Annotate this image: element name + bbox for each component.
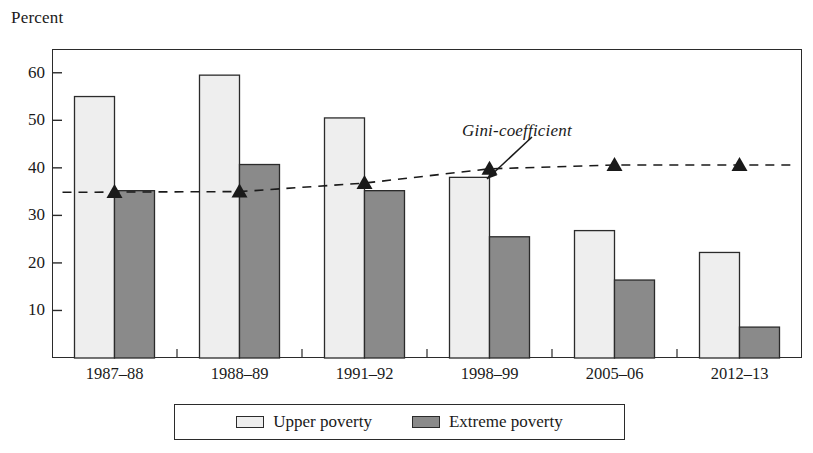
chart-figure: Percent 102030405060 Gini-coefficient Up… [0, 0, 813, 453]
bar-upper-poverty [575, 231, 615, 358]
bar-extreme-poverty [240, 165, 280, 358]
y-axis-tick-labels: 102030405060 [0, 0, 45, 453]
legend-label-extreme-poverty: Extreme poverty [449, 412, 563, 432]
plot-canvas [52, 49, 802, 358]
y-axis-tick-label: 50 [11, 111, 45, 128]
x-axis-tick-label: 1998–99 [461, 364, 519, 384]
x-axis-tick-label: 1991–92 [336, 364, 394, 384]
gini-coefficient-marker [607, 157, 623, 171]
gini-coefficient-annotation: Gini-coefficient [462, 121, 572, 141]
x-axis-tick-label: 1988–89 [211, 364, 269, 384]
gini-annotation-arrow [487, 137, 532, 179]
bar-extreme-poverty [115, 191, 155, 358]
bar-upper-poverty [700, 252, 740, 358]
chart-legend: Upper poverty Extreme poverty [174, 404, 625, 440]
legend-item-upper-poverty: Upper poverty [236, 412, 372, 432]
bar-upper-poverty [75, 97, 115, 358]
x-axis-tick-label: 2005–06 [586, 364, 644, 384]
y-axis-tick-label: 40 [11, 159, 45, 176]
gini-coefficient-line [63, 165, 792, 192]
gini-coefficient-marker [732, 157, 748, 171]
legend-item-extreme-poverty: Extreme poverty [412, 412, 563, 432]
gini-coefficient-marker [482, 161, 498, 175]
bar-extreme-poverty [615, 280, 655, 358]
y-axis-tick-label: 10 [11, 301, 45, 318]
legend-label-upper-poverty: Upper poverty [273, 412, 372, 432]
bar-upper-poverty [450, 177, 490, 358]
y-axis-tick-label: 20 [11, 254, 45, 271]
y-axis-tick-label: 60 [11, 64, 45, 81]
bar-upper-poverty [325, 118, 365, 358]
bar-extreme-poverty [365, 191, 405, 358]
bar-extreme-poverty [740, 327, 780, 358]
y-axis-tick-label: 30 [11, 206, 45, 223]
legend-swatch-upper-poverty [236, 416, 264, 428]
bar-upper-poverty [200, 75, 240, 358]
bar-extreme-poverty [490, 237, 530, 358]
legend-swatch-extreme-poverty [412, 416, 440, 428]
x-axis-tick-label: 2012–13 [711, 364, 769, 384]
x-axis-tick-label: 1987–88 [86, 364, 144, 384]
